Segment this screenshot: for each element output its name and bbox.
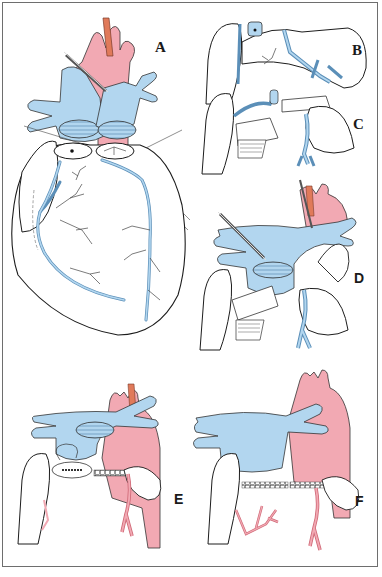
panel-label-c: C: [353, 117, 364, 132]
panel-label-e: E: [174, 492, 183, 506]
panel-f-illustration: [193, 370, 358, 550]
panel-e-illustration: [18, 384, 161, 548]
panel-label-b: B: [352, 43, 362, 58]
panel-a-illustration: [12, 18, 190, 335]
panel-label-a: A: [155, 40, 166, 55]
panel-label-f: F: [355, 494, 364, 508]
illustration-canvas: [0, 0, 382, 577]
panel-b-illustration: [206, 22, 366, 104]
panel-label-d: D: [354, 271, 364, 285]
panel-d-illustration: [200, 180, 356, 350]
panel-c-illustration: [202, 90, 354, 174]
